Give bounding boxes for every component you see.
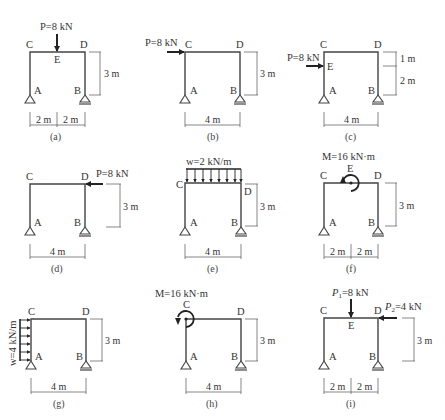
panel-caption: (g) xyxy=(53,398,65,410)
panel-caption: (b) xyxy=(207,131,219,143)
span-dimension: 2 m xyxy=(63,114,79,125)
node-B: B xyxy=(368,85,375,96)
node-A: A xyxy=(329,217,337,228)
node-B: B xyxy=(369,351,376,362)
span-dimension: 4 m xyxy=(344,114,360,125)
panel-d: P=8 kN C D A B 3 m 4 m (d) xyxy=(25,168,139,275)
node-B: B xyxy=(230,85,237,96)
span-dimension: 4 m xyxy=(50,246,66,257)
height-dimension: 3 m xyxy=(260,335,276,346)
pin-support-icon xyxy=(25,95,35,103)
panel-i: P1=8 kN P2=4 kN C D E A B 3 m 2 m 2 m (i… xyxy=(319,287,433,410)
panel-caption: (e) xyxy=(207,263,218,275)
node-A: A xyxy=(35,351,43,362)
node-C: C xyxy=(320,305,327,316)
span-dimension: 2 m xyxy=(357,381,373,392)
span-dimension: 4 m xyxy=(205,246,221,257)
height-dimension: 3 m xyxy=(399,200,415,211)
span-dimension: 2 m xyxy=(330,381,346,392)
panel-c: P=8 kN C D E A B 1 m 2 m 4 m (c) xyxy=(287,39,416,143)
node-E: E xyxy=(347,163,353,174)
node-A: A xyxy=(329,351,337,362)
height-dimension: 3 m xyxy=(417,335,433,346)
load-label: P=8 kN xyxy=(287,52,320,63)
roller-support-icon xyxy=(372,361,384,370)
load-label: P=8 kN xyxy=(96,168,129,179)
distributed-load-icon xyxy=(20,319,30,361)
span-dimension: 2 m xyxy=(36,114,52,125)
roller-support-icon xyxy=(234,95,246,104)
panel-e: w=2 kN/m C D A B 3 m 4 m (e) xyxy=(176,156,276,275)
panel-caption: (f) xyxy=(346,263,356,275)
node-B: B xyxy=(74,217,81,228)
node-C: C xyxy=(320,39,327,50)
node-B: B xyxy=(231,351,238,362)
node-D: D xyxy=(80,39,88,50)
node-A: A xyxy=(34,85,42,96)
panel-caption: (a) xyxy=(50,131,61,143)
node-A: A xyxy=(190,217,198,228)
height-dimension: 1 m xyxy=(400,53,416,64)
node-B: B xyxy=(76,351,83,362)
node-D: D xyxy=(82,306,90,317)
node-B: B xyxy=(368,217,375,228)
node-A: A xyxy=(34,217,42,228)
panel-caption: (d) xyxy=(51,263,63,275)
node-D: D xyxy=(374,170,382,181)
panel-caption: (h) xyxy=(206,398,218,410)
node-C: C xyxy=(183,299,190,310)
roller-support-icon xyxy=(235,361,247,370)
load-label: w=4 kN/m xyxy=(7,321,18,366)
node-C: C xyxy=(176,179,183,190)
node-D: D xyxy=(81,171,89,182)
node-C: C xyxy=(26,171,33,182)
span-dimension: 4 m xyxy=(51,381,67,392)
load-label-p2: P2=4 kN xyxy=(384,301,422,314)
node-D: D xyxy=(374,305,382,316)
height-dimension: 3 m xyxy=(260,201,276,212)
height-dimension: 3 m xyxy=(123,201,139,212)
node-C: C xyxy=(320,170,327,181)
load-label: M=16 kN·m xyxy=(322,151,375,162)
node-C: C xyxy=(28,306,35,317)
panel-a: P=8 kN C D E A B 3 m 2 m 2 m (a) xyxy=(25,21,120,143)
node-D: D xyxy=(374,39,382,50)
panel-b: P=8 kN C D A B 3 m 4 m (b) xyxy=(145,37,276,143)
node-D: D xyxy=(237,306,245,317)
node-C: C xyxy=(26,39,33,50)
node-C: C xyxy=(185,39,192,50)
span-dimension: 2 m xyxy=(357,246,373,257)
roller-support-icon xyxy=(372,95,384,104)
panel-h: M=16 kN·m C D A B 3 m 4 m (h) xyxy=(155,288,276,410)
node-B: B xyxy=(74,85,81,96)
roller-support-icon xyxy=(79,95,91,104)
node-E: E xyxy=(327,61,333,72)
node-B: B xyxy=(231,217,238,228)
span-dimension: 2 m xyxy=(330,246,346,257)
load-label: P=8 kN xyxy=(40,21,73,32)
node-D: D xyxy=(244,186,252,197)
load-label: M=16 kN·m xyxy=(155,288,208,299)
height-dimension: 3 m xyxy=(104,68,120,79)
node-A: A xyxy=(190,351,198,362)
frame-diagram-sheet: P=8 kN C D E A B 3 m 2 m 2 m (a) P=8 kN … xyxy=(0,0,445,420)
panel-g: w=4 kN/m C D A B 3 m 4 m (g) xyxy=(7,306,121,410)
pin-support-icon xyxy=(180,95,190,103)
node-E: E xyxy=(54,54,60,65)
height-dimension: 3 m xyxy=(260,68,276,79)
height-dimension: 3 m xyxy=(105,335,121,346)
node-A: A xyxy=(190,85,198,96)
load-label: P=8 kN xyxy=(145,37,178,48)
roller-support-icon xyxy=(372,227,384,236)
panel-caption: (i) xyxy=(346,398,355,410)
panel-f: M=16 kN·m E C D A B 3 m 2 m 2 m (f) xyxy=(319,151,415,275)
distributed-load-icon xyxy=(186,169,241,182)
pin-support-icon xyxy=(25,227,35,235)
load-label-p1: P1=8 kN xyxy=(331,287,369,300)
pin-support-icon xyxy=(26,361,36,369)
pin-support-icon xyxy=(180,227,190,235)
node-E: E xyxy=(348,320,354,331)
roller-support-icon xyxy=(79,227,91,236)
span-dimension: 4 m xyxy=(206,381,222,392)
node-A: A xyxy=(329,85,337,96)
